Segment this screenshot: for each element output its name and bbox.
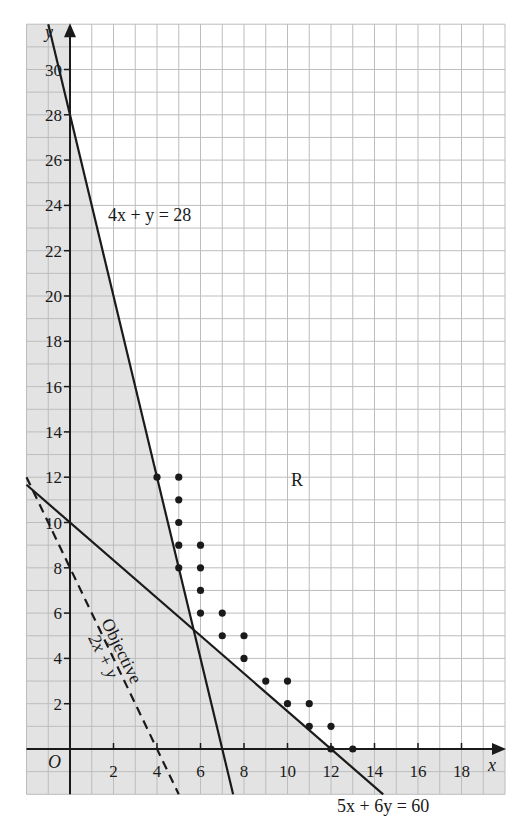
- lattice-point: [175, 519, 182, 526]
- lattice-point: [284, 700, 291, 707]
- x-tick-label: 18: [453, 762, 470, 781]
- lattice-point: [175, 542, 182, 549]
- lattice-point: [175, 474, 182, 481]
- x-tick-label: 4: [153, 762, 162, 781]
- lattice-point: [284, 677, 291, 684]
- y-tick-label: 2: [54, 695, 63, 714]
- lattice-point: [327, 723, 334, 730]
- lattice-point: [197, 587, 204, 594]
- lattice-point: [197, 542, 204, 549]
- lattice-point: [306, 723, 313, 730]
- lattice-point: [197, 564, 204, 571]
- lattice-point: [153, 474, 160, 481]
- region-label: R: [291, 470, 303, 490]
- line2-equation-text: 5x + 6y = 60: [337, 796, 429, 816]
- y-tick-label: 24: [45, 196, 63, 215]
- line2-equation-label: 5x + 6y = 60: [337, 796, 429, 816]
- x-axis-label: x: [487, 755, 496, 775]
- line1-equation-label: 4x + y = 28: [108, 205, 191, 225]
- y-tick-label: 26: [45, 151, 62, 170]
- y-tick-label: 20: [45, 287, 62, 306]
- origin-label: O: [48, 752, 61, 772]
- x-tick-label: 16: [410, 762, 427, 781]
- y-tick-label: 8: [54, 559, 63, 578]
- lattice-point: [219, 610, 226, 617]
- lattice-point: [327, 745, 334, 752]
- lattice-point: [262, 677, 269, 684]
- linear-programming-graph: 2468101214161824681012141618202224262830…: [0, 0, 519, 826]
- y-tick-label: 22: [45, 242, 62, 261]
- x-tick-label: 6: [196, 762, 205, 781]
- lattice-point: [306, 700, 313, 707]
- line1-equation-text: 4x + y = 28: [108, 205, 191, 225]
- y-tick-label: 6: [54, 604, 63, 623]
- x-tick-label: 8: [240, 762, 249, 781]
- y-tick-label: 10: [45, 514, 62, 533]
- y-tick-label: 16: [45, 378, 62, 397]
- x-tick-label: 2: [109, 762, 118, 781]
- lattice-point: [175, 564, 182, 571]
- lattice-point: [197, 610, 204, 617]
- x-tick-label: 14: [366, 762, 384, 781]
- lattice-point: [219, 632, 226, 639]
- y-tick-label: 12: [45, 468, 62, 487]
- y-tick-label: 30: [45, 61, 62, 80]
- lattice-point: [175, 496, 182, 503]
- lattice-point: [240, 632, 247, 639]
- y-tick-label: 14: [45, 423, 63, 442]
- x-tick-label: 12: [323, 762, 340, 781]
- y-tick-label: 4: [54, 649, 63, 668]
- lattice-point: [349, 745, 356, 752]
- y-axis-label: y: [43, 22, 53, 42]
- x-tick-label: 10: [279, 762, 296, 781]
- y-tick-label: 28: [45, 106, 62, 125]
- y-tick-label: 18: [45, 332, 62, 351]
- lattice-point: [240, 655, 247, 662]
